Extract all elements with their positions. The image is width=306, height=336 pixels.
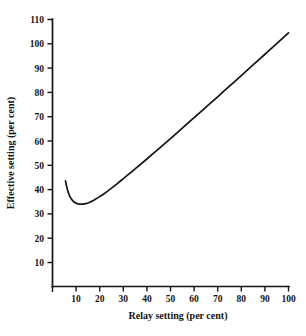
y-tick-label: 100 [30,39,45,49]
y-axis-title: Effective setting (per cent) [5,97,17,209]
y-tick-label: 10 [35,258,45,268]
y-tick-labels: 110 100 90 80 70 60 50 40 30 20 10 [30,15,45,268]
y-tick-label: 90 [35,64,45,74]
y-axis: 110 100 90 80 70 60 50 40 30 20 10 Effec… [5,15,53,287]
x-tick-label: 10 [71,294,81,304]
x-tick-label: 90 [260,294,270,304]
x-axis-title: Relay setting (per cent) [129,310,228,322]
y-tick-label: 60 [35,137,45,147]
y-tick-label: 30 [35,209,45,219]
y-tick-label: 110 [30,15,44,25]
y-tick-label: 50 [35,161,45,171]
y-tick-label: 70 [35,112,45,122]
x-tick-label: 50 [166,294,176,304]
y-tick-label: 40 [35,185,45,195]
chart-canvas: 110 100 90 80 70 60 50 40 30 20 10 Effec… [0,0,306,336]
x-axis: 10 20 30 40 50 60 70 80 90 100 Relay set… [53,287,296,323]
chart-figure: 110 100 90 80 70 60 50 40 30 20 10 Effec… [0,0,306,336]
y-tick-label: 20 [35,234,45,244]
x-tick-label: 100 [281,294,296,304]
x-tick-labels: 10 20 30 40 50 60 70 80 90 100 [71,294,296,304]
x-tick-label: 30 [119,294,129,304]
x-tick-label: 70 [213,294,223,304]
x-tick-label: 20 [95,294,105,304]
data-series-line [65,33,288,204]
x-tick-label: 40 [142,294,152,304]
x-tick-label: 60 [189,294,199,304]
x-tick-label: 80 [237,294,247,304]
y-tick-label: 80 [35,88,45,98]
